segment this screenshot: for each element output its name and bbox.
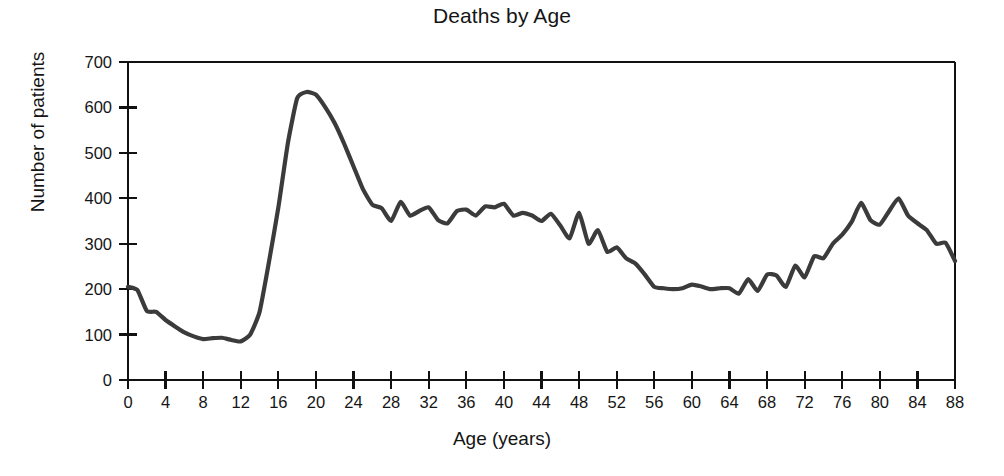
x-tick-label: 24 — [344, 393, 362, 412]
x-tick-label: 12 — [232, 393, 250, 412]
x-tick-label: 16 — [269, 393, 287, 412]
x-tick-label: 76 — [833, 393, 851, 412]
y-tick-label: 0 — [40, 371, 112, 390]
x-tick-label: 8 — [199, 393, 208, 412]
x-tick-label: 48 — [570, 393, 588, 412]
x-tick-label: 84 — [908, 393, 926, 412]
x-tick-label: 0 — [123, 393, 132, 412]
x-tick-label: 60 — [683, 393, 701, 412]
y-tick-label: 100 — [40, 325, 112, 344]
chart-figure: Deaths by Age Number of patients Age (ye… — [0, 0, 1004, 476]
y-tick-label: 700 — [40, 53, 112, 72]
x-tick-label: 64 — [720, 393, 738, 412]
x-tick-label: 32 — [420, 393, 438, 412]
x-tick-label: 68 — [758, 393, 776, 412]
y-tick-label: 200 — [40, 280, 112, 299]
x-tick-label: 20 — [307, 393, 325, 412]
data-series-line — [128, 92, 955, 342]
x-tick-label: 44 — [532, 393, 550, 412]
x-tick-label: 52 — [607, 393, 625, 412]
y-tick-label: 300 — [40, 234, 112, 253]
x-tick-label: 72 — [795, 393, 813, 412]
x-tick-label: 88 — [946, 393, 964, 412]
x-tick-label: 28 — [382, 393, 400, 412]
x-tick-label: 4 — [161, 393, 170, 412]
x-tick-label: 56 — [645, 393, 663, 412]
y-tick-label: 500 — [40, 143, 112, 162]
x-tick-label: 40 — [495, 393, 513, 412]
x-tick-label: 80 — [871, 393, 889, 412]
y-tick-label: 600 — [40, 98, 112, 117]
x-tick-label: 36 — [457, 393, 475, 412]
y-tick-label: 400 — [40, 189, 112, 208]
